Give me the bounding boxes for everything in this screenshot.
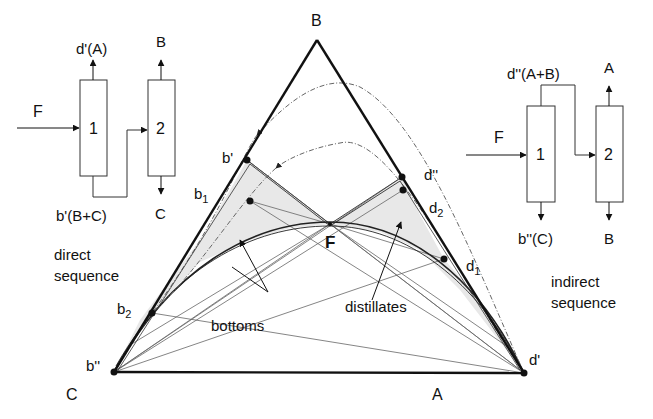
b2-point [149, 310, 156, 317]
b-double-prime-label: b'' [86, 357, 100, 374]
col1-top-product: d''(A+B) [507, 65, 560, 82]
direct-sequence-title-line2: sequence [54, 267, 119, 284]
column-1-label: 1 [89, 120, 98, 137]
feed-point [328, 222, 332, 226]
col2-top-product: A [604, 59, 614, 76]
composition-points [111, 157, 528, 377]
feed-point-label: F [325, 233, 335, 252]
column-2-label: 2 [156, 120, 165, 137]
feed-label: F [494, 129, 504, 146]
bottoms-region [114, 160, 330, 372]
vertex-b-label: B [311, 12, 322, 29]
d-double-prime-point [399, 174, 406, 181]
bottoms-annotation: bottoms [211, 317, 264, 334]
col1-bottom-product: b'(B+C) [56, 207, 107, 224]
d-prime-point [521, 370, 528, 377]
b2-label: b2 [117, 300, 131, 320]
col1-top-product: d'(A) [76, 40, 107, 57]
direct-sequence-title-line1: direct [54, 246, 92, 263]
d-prime-label: d' [529, 351, 540, 368]
d2-point [400, 187, 407, 194]
col2-top-product: B [156, 33, 166, 50]
d-double-prime-label: d'' [424, 166, 438, 183]
b-double-prime-point [111, 369, 118, 376]
indirect-sequence-title-line1: indirect [551, 273, 600, 290]
tie-lines [114, 160, 524, 373]
ternary-triangle: B C A F b' b1 b2 b'' d'' d2 d1 d' bottom… [66, 12, 540, 403]
vertex-c-label: C [66, 386, 78, 403]
indirect-sequence-title-line2: sequence [551, 294, 616, 311]
distillates-annotation: distillates [345, 298, 407, 315]
column-2-label: 2 [604, 146, 613, 163]
b-prime-point [244, 157, 251, 164]
column-1-label: 1 [536, 146, 545, 163]
b1-label: b1 [194, 185, 208, 205]
d2-label: d2 [429, 199, 443, 219]
bottom-point-mid [247, 198, 254, 205]
indirect-sequence-schematic: F 1 d''(A+B) b''(C) 2 A B indirect seque… [466, 59, 623, 311]
b-prime-label: b' [222, 149, 233, 166]
col2-bottom-product: C [155, 205, 166, 222]
direct-sequence-schematic: F 1 d'(A) b'(B+C) 2 B C direct sequence [17, 33, 175, 284]
vertex-a-label: A [432, 386, 443, 403]
ternary-diagram-figure: F 1 d'(A) b'(B+C) 2 B C direct sequence … [0, 0, 653, 419]
feed-label: F [33, 103, 43, 120]
d1-label: d1 [466, 257, 480, 277]
col2-bottom-product: B [604, 230, 614, 247]
d1-point [441, 256, 448, 263]
col1-bottom-product: b''(C) [518, 230, 553, 247]
